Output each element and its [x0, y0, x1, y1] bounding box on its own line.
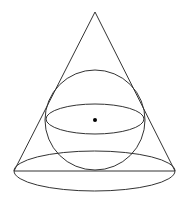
inscribed-sphere-cone-diagram — [0, 0, 188, 204]
cone-right-edge — [95, 12, 175, 171]
sphere-center-dot — [93, 118, 97, 122]
